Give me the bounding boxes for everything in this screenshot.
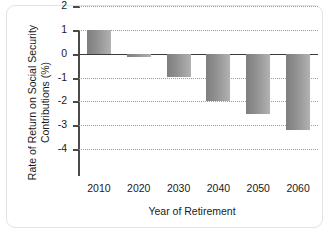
gridline [79,101,318,102]
bar-2010 [87,30,111,54]
x-tick-label-2010: 2010 [77,182,121,194]
y-tick-label: 2 [27,0,67,10]
x-tick-label-2040: 2040 [196,182,240,194]
gridline [79,149,318,150]
x-tick-label-2030: 2030 [157,182,201,194]
y-tick-label: -4 [27,143,67,153]
x-tick-label-2050: 2050 [236,182,280,194]
bar-2040 [206,54,230,102]
x-tick-label-2020: 2020 [117,182,161,194]
x-axis-title: Year of Retirement [67,205,317,217]
gridline [79,78,318,79]
bar-2020 [127,54,151,58]
gridline [79,30,318,31]
chart-figure-frame: Rate of Return on Social Security Contri… [6,5,323,228]
bar-2030 [167,54,191,78]
gridline [79,6,318,7]
zero-line [79,54,318,55]
y-tick-label: -2 [27,95,67,105]
x-tick-label-2060: 2060 [276,182,320,194]
gridline [79,125,318,126]
plot-area [79,32,318,175]
y-tick-label: 0 [27,48,67,58]
y-tick-label: -1 [27,72,67,82]
bar-2050 [246,54,270,115]
y-tick-label: -3 [27,119,67,129]
bar-2060 [286,54,310,130]
y-tick-label: 1 [27,24,67,34]
